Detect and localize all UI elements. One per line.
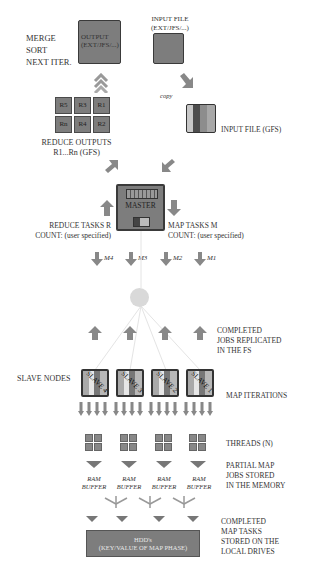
ram-buffer: RAMBUFFER xyxy=(181,475,217,491)
triangle-down-icons xyxy=(86,516,211,524)
slave-label: SLAVE 3 xyxy=(116,369,144,397)
slave-node: SLAVE 4 xyxy=(81,369,109,397)
ram-label: RAM xyxy=(76,475,112,483)
buffer-label: BUFFER xyxy=(76,483,112,491)
completed-jobs-line: JOBS REPLICATED xyxy=(217,336,281,346)
completed-jobs-line: IN THE FS xyxy=(217,346,281,356)
partial-map-line: PARTIAL MAP xyxy=(226,461,285,471)
ram-buffer: RAMBUFFER xyxy=(146,475,182,491)
hdd-sub: (KEY/VALUE OF MAP PHASE) xyxy=(87,544,199,552)
completed-jobs-line: COMPLETED xyxy=(217,326,281,336)
threads-label: THREADS (N) xyxy=(226,438,273,449)
partial-map-label: PARTIAL MAP JOBS STORED IN THE MEMORY xyxy=(226,461,285,491)
slave-label: SLAVE 2 xyxy=(151,369,179,397)
thread-group xyxy=(189,434,207,452)
completed-map-label: COMPLETED MAP TASKS STORED ON THE LOCAL … xyxy=(221,517,279,557)
distribution-lines xyxy=(0,0,315,420)
slave-node: SLAVE 1 xyxy=(186,369,214,397)
triangle-down-icons xyxy=(86,461,211,469)
buffer-label: BUFFER xyxy=(181,483,217,491)
buffer-label: BUFFER xyxy=(111,483,147,491)
ram-buffer: RAMBUFFER xyxy=(111,475,147,491)
map-iterations-label: MAP ITERATIONS xyxy=(226,390,287,401)
thread-group xyxy=(85,434,103,452)
slave-label: SLAVE 1 xyxy=(186,369,214,397)
arrow-up-icon xyxy=(123,326,137,340)
partial-map-line: JOBS STORED xyxy=(226,471,285,481)
arrow-up-icon xyxy=(88,326,102,340)
thread-group xyxy=(155,434,173,452)
partial-map-line: IN THE MEMORY xyxy=(226,481,285,491)
map-iteration-arrows xyxy=(78,402,218,416)
slave-nodes-label: SLAVE NODES xyxy=(17,373,70,384)
fan-arrows-icon xyxy=(100,494,200,510)
ram-label: RAM xyxy=(146,475,182,483)
completed-jobs-label: COMPLETED JOBS REPLICATED IN THE FS xyxy=(217,326,281,356)
buffer-label: BUFFER xyxy=(146,483,182,491)
hdd-box: HDD's (KEY/VALUE OF MAP PHASE) xyxy=(86,530,200,557)
arrow-up-icon xyxy=(158,326,172,340)
completed-map-line: STORED ON THE xyxy=(221,537,279,547)
dispatcher-circle xyxy=(130,288,149,307)
slave-node: SLAVE 3 xyxy=(116,369,144,397)
slave-node: SLAVE 2 xyxy=(151,369,179,397)
completed-map-line: COMPLETED xyxy=(221,517,279,527)
ram-label: RAM xyxy=(181,475,217,483)
arrow-up-icon xyxy=(193,326,207,340)
slave-label: SLAVE 4 xyxy=(81,369,109,397)
ram-buffer: RAMBUFFER xyxy=(76,475,112,491)
thread-group xyxy=(120,434,138,452)
completed-map-line: LOCAL DRIVES xyxy=(221,547,279,557)
ram-label: RAM xyxy=(111,475,147,483)
hdd-title: HDD's xyxy=(87,536,199,544)
completed-map-line: MAP TASKS xyxy=(221,527,279,537)
